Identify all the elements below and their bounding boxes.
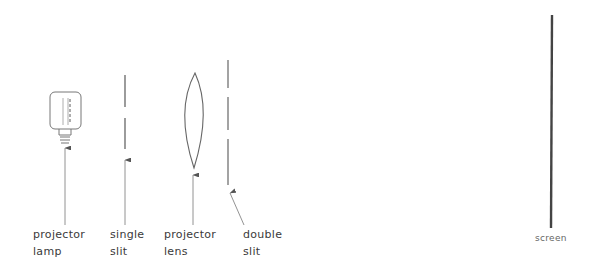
label-projector-lamp: projector lamp	[33, 226, 85, 260]
label-line: double	[243, 226, 282, 243]
projector-lamp-icon	[50, 92, 81, 143]
label-line: slit	[243, 243, 282, 260]
double-slit-pointer-line	[230, 193, 244, 225]
label-line: slit	[110, 243, 144, 260]
projector-lens-icon	[185, 73, 204, 168]
screen-icon	[551, 15, 552, 228]
label-line: projector	[33, 226, 85, 243]
label-line: projector	[164, 226, 216, 243]
label-line: lens	[164, 243, 216, 260]
label-screen: screen	[535, 230, 567, 247]
label-line: single	[110, 226, 144, 243]
label-line: screen	[535, 230, 567, 247]
label-projector-lens: projector lens	[164, 226, 216, 260]
label-double-slit: double slit	[243, 226, 282, 260]
label-line: lamp	[33, 243, 85, 260]
label-single-slit: single slit	[110, 226, 144, 260]
